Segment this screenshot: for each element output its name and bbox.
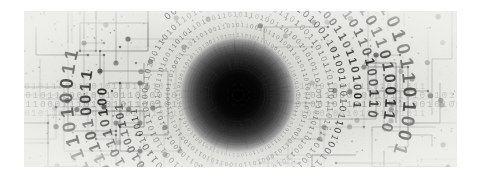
image-page: 0010110001001011010010110010100101101001…: [0, 0, 481, 179]
binary-vortex-artwork: 0010110001001011010010110010100101101001…: [24, 11, 457, 167]
binary-vortex-image: 0010110001001011010010110010100101101001…: [24, 11, 457, 167]
vignette: [24, 11, 457, 167]
